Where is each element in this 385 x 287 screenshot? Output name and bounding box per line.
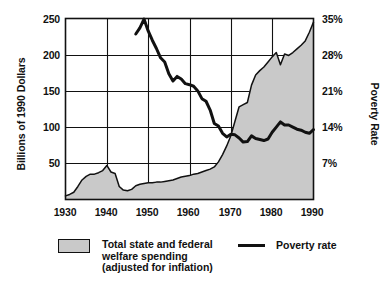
legend-item-poverty: Poverty rate [238,240,337,252]
area-swatch-icon [58,239,90,253]
legend-item-spending: Total state and federal welfare spending… [58,239,213,274]
series-area-fill [66,22,314,199]
legend-label-poverty: Poverty rate [276,240,337,252]
legend-label-spending: Total state and federal welfare spending… [102,239,213,274]
chart-container: Billions of 1990 Dollars Poverty Rate 25… [0,0,385,287]
line-swatch-icon [238,244,265,247]
chart-legend: Total state and federal welfare spending… [58,239,378,283]
series-layer [66,19,314,199]
